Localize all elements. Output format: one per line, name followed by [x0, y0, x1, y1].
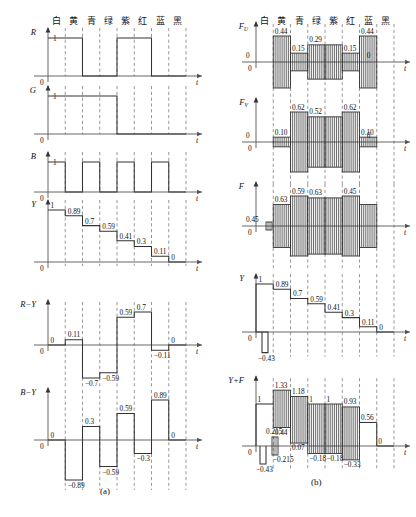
svg-text:t: t: [196, 194, 199, 203]
svg-text:0.7: 0.7: [137, 303, 146, 312]
svg-text:Y: Y: [239, 273, 245, 283]
svg-text:0: 0: [248, 144, 252, 153]
color-bar-label-0: 白: [52, 14, 61, 27]
svg-text:0: 0: [40, 442, 44, 451]
svg-text:0.89: 0.89: [154, 391, 167, 400]
svg-text:0: 0: [378, 437, 382, 446]
color-bar-label-1: 黄: [277, 14, 286, 27]
svg-text:0.93: 0.93: [344, 397, 357, 406]
svg-text:0.59: 0.59: [292, 187, 305, 196]
svg-text:−0.11: −0.11: [154, 351, 171, 360]
color-bar-label-4: 紫: [121, 14, 130, 27]
color-bar-label-6: 蓝: [156, 14, 165, 27]
svg-text:−0.43: −0.43: [258, 354, 275, 363]
panel-b: 白黄青绿紫红蓝黑 tFU000.440.150.290.150.440tFV00…: [208, 0, 416, 517]
waveform-b-path: [48, 162, 186, 192]
svg-text:0.44: 0.44: [361, 27, 374, 36]
color-bar-label-1: 黄: [69, 14, 78, 27]
svg-text:−0.59: −0.59: [102, 374, 119, 383]
svg-text:0.89: 0.89: [276, 280, 289, 289]
svg-text:FV: FV: [238, 97, 248, 108]
svg-text:0: 0: [246, 131, 250, 140]
svg-text:0.29: 0.29: [309, 35, 322, 44]
svg-text:0.11: 0.11: [68, 330, 81, 339]
svg-text:t: t: [404, 228, 407, 237]
svg-text:0: 0: [40, 78, 44, 87]
svg-text:0.10: 0.10: [275, 128, 288, 137]
svg-text:1: 1: [258, 395, 262, 404]
svg-text:0.44: 0.44: [275, 27, 288, 36]
svg-text:0.59: 0.59: [102, 222, 115, 231]
svg-text:0.59: 0.59: [120, 404, 133, 413]
svg-text:1.33: 1.33: [275, 381, 288, 390]
panel-b-caption: (b): [311, 477, 322, 487]
svg-text:0.3: 0.3: [85, 417, 94, 426]
panel-a: 白黄青绿紫红蓝黑 tR01tG01tB01tY010.890.70.590.41…: [0, 0, 208, 517]
svg-text:t: t: [404, 144, 407, 153]
svg-text:0.63: 0.63: [309, 188, 322, 197]
svg-text:1: 1: [51, 201, 55, 210]
color-bar-label-4: 紫: [329, 14, 338, 27]
svg-text:0.62: 0.62: [292, 103, 305, 112]
svg-text:0.7: 0.7: [85, 217, 94, 226]
svg-text:0.7: 0.7: [293, 289, 302, 298]
svg-text:R: R: [30, 27, 37, 37]
color-bar-label-0: 白: [260, 14, 269, 27]
svg-text:t: t: [196, 136, 199, 145]
waveform-group-a: tR01tG01tB01tY010.890.70.590.410.30.110t…: [0, 0, 208, 517]
svg-text:0: 0: [248, 228, 252, 237]
svg-text:−0.7: −0.7: [85, 379, 99, 388]
waveform-r-path: [48, 38, 186, 76]
svg-text:t: t: [404, 448, 407, 457]
svg-text:B−Y: B−Y: [20, 387, 37, 397]
svg-text:1.18: 1.18: [292, 387, 305, 396]
svg-text:0: 0: [248, 64, 252, 73]
color-bar-label-7: 黑: [381, 14, 390, 27]
svg-text:0.15: 0.15: [292, 44, 305, 53]
waveform-group-b: tFU000.440.150.290.150.440tFV000.100.620…: [208, 0, 416, 517]
svg-text:0.52: 0.52: [309, 107, 322, 116]
svg-text:0: 0: [248, 334, 252, 343]
svg-text:0: 0: [367, 51, 371, 60]
svg-text:t: t: [196, 78, 199, 87]
svg-text:G: G: [30, 85, 37, 95]
svg-text:FU: FU: [238, 21, 249, 32]
svg-text:0.11: 0.11: [362, 318, 375, 327]
svg-text:0.62: 0.62: [344, 103, 357, 112]
svg-text:−0.43: −0.43: [256, 465, 273, 474]
panel-a-caption: (a): [100, 486, 110, 496]
svg-text:B: B: [31, 151, 37, 161]
svg-text:−0.215: −0.215: [273, 455, 294, 464]
svg-text:0: 0: [40, 136, 44, 145]
svg-text:0.89: 0.89: [68, 207, 81, 216]
svg-text:Y: Y: [31, 199, 37, 209]
svg-text:t: t: [196, 442, 199, 451]
svg-text:0.41: 0.41: [120, 232, 133, 241]
svg-text:t: t: [404, 334, 407, 343]
svg-text:0.63: 0.63: [275, 195, 288, 204]
svg-text:0.3: 0.3: [345, 309, 354, 318]
color-bar-label-5: 红: [138, 14, 147, 27]
color-bar-label-2: 青: [295, 14, 304, 27]
svg-text:0: 0: [171, 336, 175, 345]
svg-text:−0.59: −0.59: [102, 468, 119, 477]
svg-text:0.45: 0.45: [246, 215, 259, 224]
svg-text:0.56: 0.56: [361, 413, 374, 422]
svg-text:−0.89: −0.89: [68, 481, 85, 490]
svg-text:0.3: 0.3: [137, 237, 146, 246]
svg-text:0.07: 0.07: [292, 443, 305, 452]
svg-text:0.44: 0.44: [275, 428, 288, 437]
svg-text:0: 0: [246, 51, 250, 60]
svg-text:0: 0: [367, 131, 371, 140]
svg-text:−0.3: −0.3: [137, 454, 151, 463]
color-bar-label-5: 红: [346, 14, 355, 27]
svg-text:0.59: 0.59: [310, 295, 323, 304]
svg-text:0: 0: [40, 347, 44, 356]
color-bar-label-7: 黑: [173, 14, 182, 27]
color-bar-label-6: 蓝: [364, 14, 373, 27]
svg-text:t: t: [404, 64, 407, 73]
svg-text:t: t: [196, 264, 199, 273]
waveform-g-path: [48, 96, 186, 134]
svg-text:1: 1: [259, 275, 263, 284]
color-bar-label-3: 绿: [104, 14, 113, 27]
